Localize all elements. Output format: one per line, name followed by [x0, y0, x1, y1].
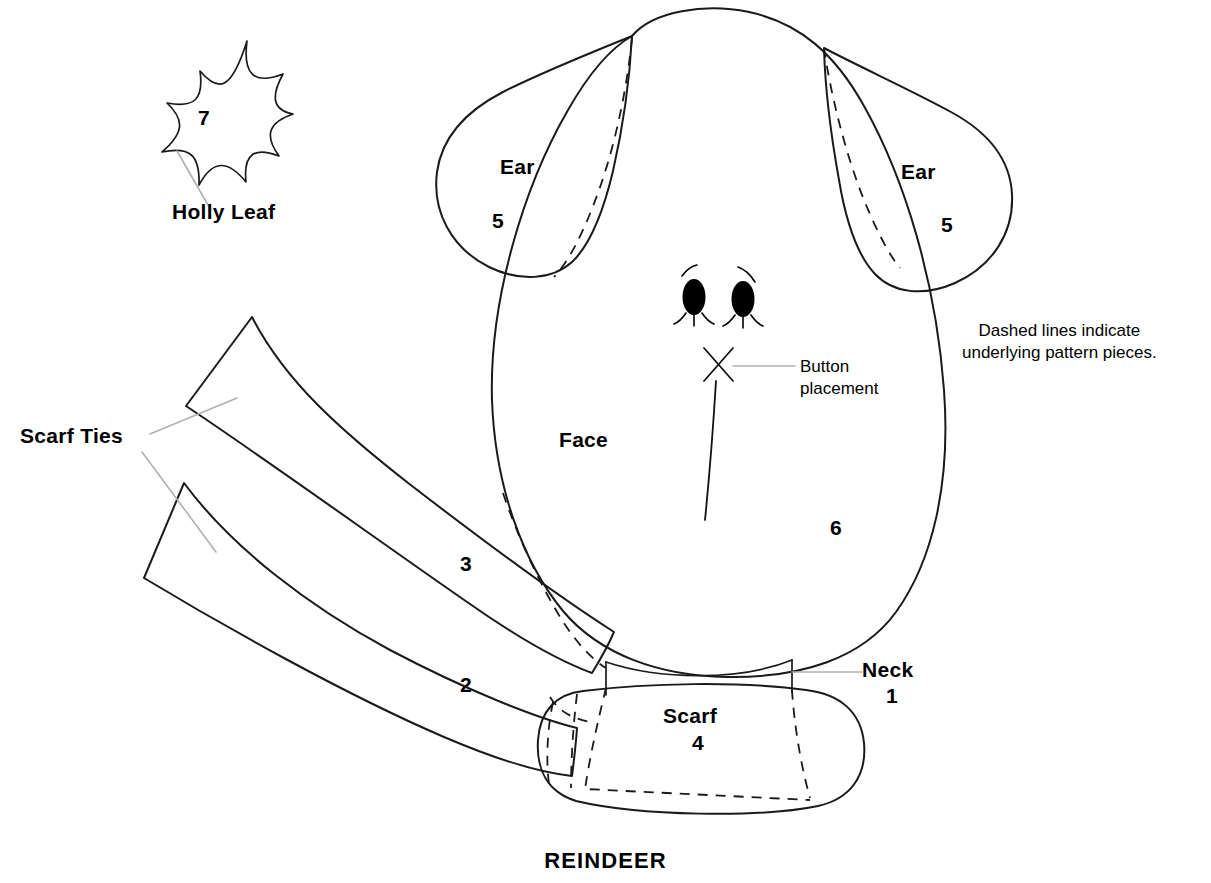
scarf-ties-leader-upper — [150, 398, 237, 434]
eye-left-pupil — [683, 279, 706, 315]
face-outline — [492, 8, 946, 677]
eye-right-lashes — [723, 315, 763, 328]
eye-left-lashes — [674, 313, 714, 326]
face-label: Face — [559, 428, 608, 453]
ear-left-underlay-dashed — [554, 38, 632, 277]
scarf-ties-label: Scarf Ties — [20, 424, 123, 449]
ear-right-label: Ear — [901, 160, 936, 185]
page-title: REINDEER — [0, 848, 1211, 874]
neck-label: Neck — [862, 658, 913, 683]
eye-right-brow — [738, 267, 755, 282]
eye-left-brow — [682, 265, 697, 276]
button-placement-callout: Button placement — [800, 356, 878, 400]
eye-right-pupil — [732, 281, 755, 317]
scarf-number: 4 — [692, 731, 704, 756]
note-line1: Dashed lines indicate — [962, 320, 1157, 342]
scarf-underlay-dashed-right — [792, 690, 810, 798]
button-placement-line2: placement — [800, 378, 878, 400]
face-number: 6 — [830, 516, 842, 541]
note-line2: underlying pattern pieces. — [962, 342, 1157, 364]
dashed-lines-note: Dashed lines indicate underlying pattern… — [962, 320, 1157, 364]
button-placement-line1: Button — [800, 356, 878, 378]
ear-left-number: 5 — [492, 209, 504, 234]
pattern-diagram: Holly Leaf 7 Ear 5 Ear 5 Face 6 Neck 1 S… — [0, 0, 1211, 883]
button-placement-x-icon — [704, 348, 733, 381]
scarf-tie-2-number: 2 — [460, 673, 472, 698]
scarf-tie-3-number: 3 — [460, 552, 472, 577]
ear-left-label: Ear — [500, 155, 535, 180]
neck-number: 1 — [886, 684, 898, 709]
neck-top-edge — [606, 660, 792, 676]
scarf-ties-leader-lower — [142, 452, 216, 552]
mouth-line — [705, 381, 716, 520]
scarf-tie-3-underlay-dashed — [503, 493, 606, 668]
ear-right-number: 5 — [941, 213, 953, 238]
scarf-tie-3-outline — [186, 317, 614, 673]
holly-leaf-number: 7 — [198, 106, 210, 131]
holly-leaf-label: Holly Leaf — [172, 200, 275, 225]
scarf-label: Scarf — [663, 704, 717, 729]
holly-leaf-outline — [162, 41, 293, 185]
